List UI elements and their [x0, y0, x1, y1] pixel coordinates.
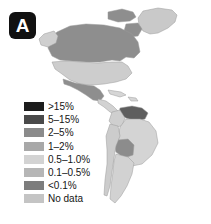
legend-swatch-0p5-1p0	[24, 155, 44, 164]
legend-swatch-1-2	[24, 142, 44, 151]
legend-label-0p1-0p5: 0.1–0.5%	[48, 167, 90, 178]
legend-swatch-no-data	[24, 194, 44, 203]
figure-panel-a: A >15% 5–15% 2–5% 1–2% 0.5–1.0% 0.1–0.5%	[0, 0, 211, 224]
legend-swatch-5-15	[24, 115, 44, 124]
prevalence-legend: >15% 5–15% 2–5% 1–2% 0.5–1.0% 0.1–0.5% <…	[24, 100, 90, 206]
legend-item: 0.1–0.5%	[24, 166, 90, 179]
legend-swatch-0p1-0p5	[24, 168, 44, 177]
panel-letter: A	[16, 16, 30, 35]
panel-letter-badge: A	[9, 12, 36, 39]
legend-swatch-2-5	[24, 128, 44, 137]
legend-swatch-lt0p1	[24, 181, 44, 190]
legend-label-0p5-1p0: 0.5–1.0%	[48, 154, 90, 165]
legend-item: >15%	[24, 100, 90, 113]
legend-label-1-2: 1–2%	[48, 141, 74, 152]
legend-label-gt15: >15%	[48, 101, 74, 112]
legend-item: 2–5%	[24, 126, 90, 139]
legend-item: 1–2%	[24, 140, 90, 153]
legend-item: No data	[24, 192, 90, 205]
legend-label-5-15: 5–15%	[48, 114, 79, 125]
legend-item: 5–15%	[24, 113, 90, 126]
legend-label-no-data: No data	[48, 193, 83, 204]
legend-item: <0.1%	[24, 179, 90, 192]
legend-label-lt0p1: <0.1%	[48, 180, 77, 191]
legend-label-2-5: 2–5%	[48, 127, 74, 138]
legend-swatch-gt15	[24, 102, 44, 111]
legend-item: 0.5–1.0%	[24, 153, 90, 166]
